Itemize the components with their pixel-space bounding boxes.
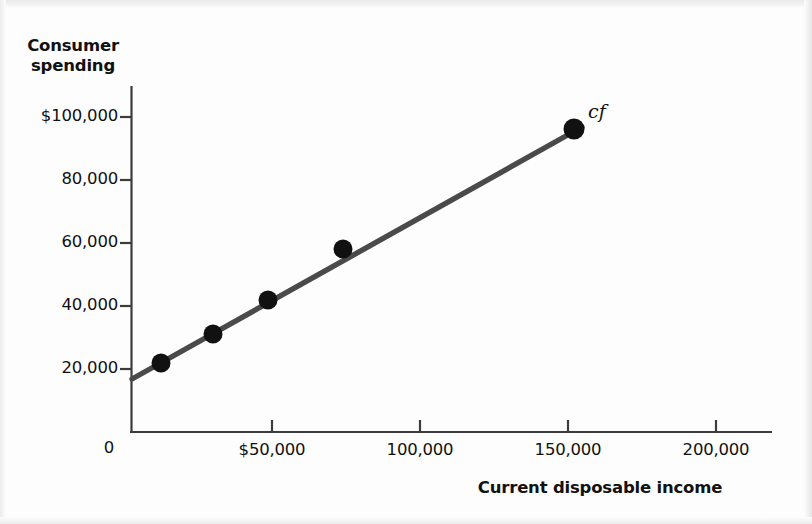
consumption-function-line bbox=[132, 127, 582, 379]
chart-container: Consumer spending $100,000 80,000 60,000… bbox=[0, 0, 812, 524]
x-tick-label-150000: 150,000 bbox=[503, 440, 633, 459]
y-tick-label-40000: 40,000 bbox=[6, 295, 118, 314]
data-point bbox=[259, 291, 278, 310]
data-point bbox=[334, 240, 353, 259]
x-tick-label-100000: 100,000 bbox=[355, 440, 485, 459]
data-point bbox=[152, 354, 171, 373]
y-tick-label-60000: 60,000 bbox=[6, 232, 118, 251]
y-axis-title-line2: spending bbox=[18, 56, 128, 76]
x-tick-label-50000: $50,000 bbox=[207, 440, 337, 459]
data-point bbox=[204, 325, 223, 344]
y-axis-title-line1: Consumer bbox=[18, 36, 128, 56]
y-tick-label-80000: 80,000 bbox=[6, 169, 118, 188]
y-tick-label-100000: $100,000 bbox=[6, 106, 118, 125]
x-axis-title: Current disposable income bbox=[430, 478, 770, 497]
x-tick-label-200000: 200,000 bbox=[651, 440, 781, 459]
origin-label: 0 bbox=[96, 438, 122, 457]
data-point bbox=[564, 119, 585, 140]
y-tick-label-20000: 20,000 bbox=[6, 358, 118, 377]
curve-label-cf: cf bbox=[588, 100, 606, 122]
y-axis-title: Consumer spending bbox=[18, 36, 128, 76]
